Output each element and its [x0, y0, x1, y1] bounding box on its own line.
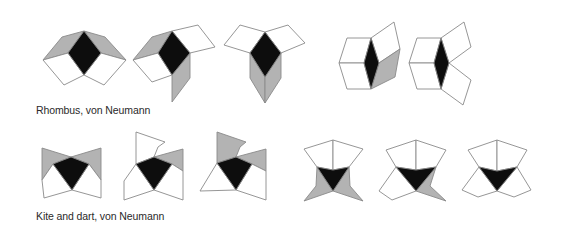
neighbor-tile-empty [304, 140, 333, 170]
kite-dart-configuration-1 [42, 148, 101, 198]
caption-kite-dart-von-neumann: Kite and dart, von Neumann [36, 210, 164, 222]
rhombus-configuration-2 [133, 25, 215, 102]
rhombus-configuration-4 [339, 22, 400, 89]
rhombus-configuration-1 [43, 31, 126, 85]
neighbor-tile-empty [333, 140, 363, 170]
neighbor-tile-empty [468, 140, 497, 171]
kite-dart-configuration-3 [200, 132, 266, 200]
neighbor-tile-empty [386, 140, 416, 170]
rhombus-configuration-5 [409, 22, 471, 105]
caption-rhombus-von-neumann: Rhombus, von Neumann [36, 104, 150, 116]
tiling-neighborhood-diagram [0, 0, 569, 235]
neighbor-tile-empty [497, 140, 527, 171]
kite-dart-configuration-2 [124, 132, 183, 200]
rhombus-configuration-3 [224, 25, 305, 103]
kite-dart-configuration-4 [304, 140, 363, 201]
kite-dart-configuration-5 [379, 140, 446, 201]
kite-dart-configuration-6 [462, 140, 531, 197]
neighbor-tile-empty [416, 140, 446, 170]
